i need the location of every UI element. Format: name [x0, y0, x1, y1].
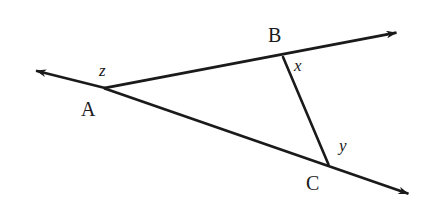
ray-through-B [104, 33, 397, 88]
angle-label-y: y [339, 137, 347, 154]
geometry-canvas [0, 0, 434, 200]
ray-left-of-A [36, 71, 105, 88]
segment-BC [283, 57, 329, 165]
vertex-label-b: B [268, 25, 281, 45]
ray-through-C [104, 88, 409, 194]
geometry-figure: A B C z x y [0, 0, 434, 200]
vertex-label-c: C [306, 173, 319, 193]
angle-label-x: x [294, 57, 302, 74]
vertex-label-a: A [81, 99, 95, 119]
angle-label-z: z [99, 62, 106, 79]
